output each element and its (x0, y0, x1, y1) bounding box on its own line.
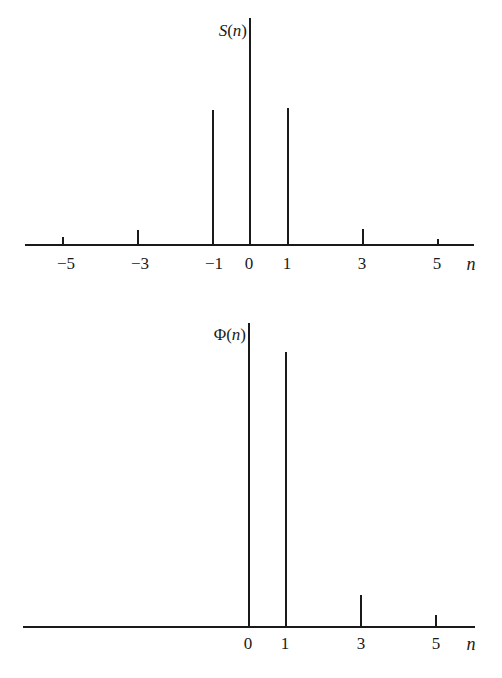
x-axis-label: n (467, 254, 476, 274)
x-tick-label: 3 (358, 254, 367, 273)
chart-phi-of-n: 0135Φ(n)n (23, 323, 476, 654)
x-tick-label: −3 (131, 254, 149, 273)
x-tick-label: −1 (205, 254, 223, 273)
x-tick-label: 0 (245, 254, 254, 273)
x-axis-label: n (467, 634, 476, 654)
x-tick-label: 1 (281, 634, 290, 653)
x-tick-label: 0 (244, 634, 253, 653)
x-tick-label: 5 (433, 254, 442, 273)
x-tick-label: 3 (357, 634, 366, 653)
chart-s-of-n: −5−3−10135S(n)n (25, 18, 476, 274)
x-tick-label: 5 (432, 634, 441, 653)
y-axis-label: S(n) (219, 21, 247, 40)
y-axis-label: Φ(n) (214, 325, 246, 344)
x-tick-label: 1 (283, 254, 292, 273)
stem-plots: −5−3−10135S(n)n0135Φ(n)n (0, 0, 502, 678)
x-tick-label: −5 (57, 254, 75, 273)
